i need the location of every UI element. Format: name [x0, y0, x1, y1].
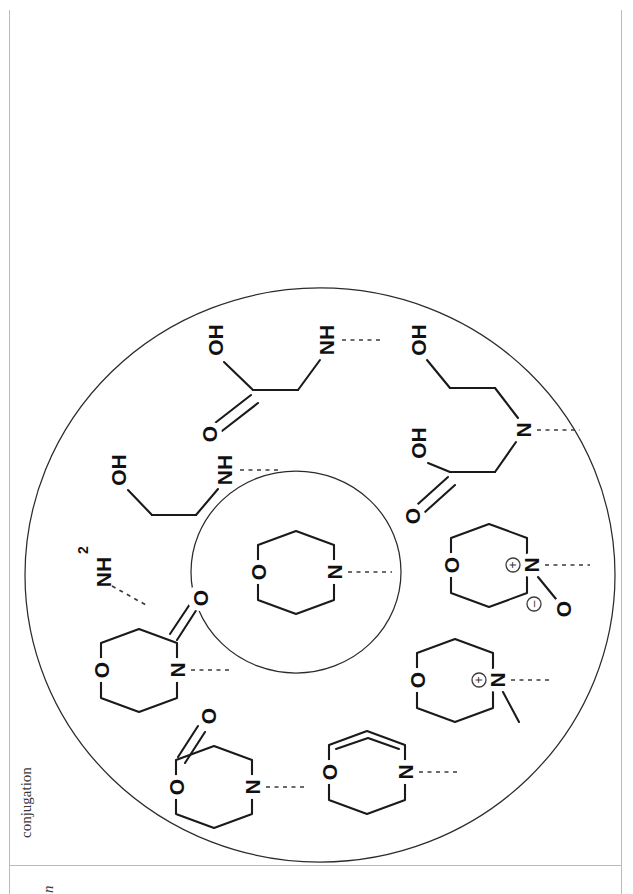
atom-label-ring-nitrogen: N [520, 557, 543, 572]
atom-label-hydroxyl: OH [407, 427, 430, 459]
atom-label-ring-oxygen: O [90, 662, 113, 678]
structure-morpholin-2-one: O N O [164, 703, 307, 828]
atom-label-ring-oxygen: O [165, 779, 188, 795]
structure-morpholin-3-one: O N O [89, 585, 232, 712]
atom-label-amine-nh2: NH [92, 557, 115, 587]
atom-label-hydroxyl: OH [204, 324, 227, 356]
charge-minus-label: – [527, 600, 541, 607]
atom-label-carbonyl-oxygen: O [197, 708, 220, 724]
charge-plus-label: + [506, 561, 520, 568]
atom-label-ring-oxygen: O [440, 557, 463, 573]
charge-plus-label: + [472, 676, 486, 683]
atom-label-tertiary-nitrogen: N [512, 422, 535, 437]
atom-label-ring-oxygen: O [318, 764, 341, 780]
atom-label-carbonyl-oxygen: O [189, 590, 212, 606]
chemical-structure-figure: O N OH O NH [0, 0, 633, 894]
atom-label-amine-nh: NH [315, 325, 338, 355]
atom-label-ring-nitrogen: N [166, 662, 189, 677]
atom-label-nitrogen: N [323, 564, 346, 579]
atom-label-oxide-oxygen: O [552, 601, 575, 617]
structure-hydroxyethylamino: OH NH [103, 454, 281, 515]
atom-label-ring-nitrogen: N [394, 764, 417, 779]
atom-label-ring-nitrogen: N [486, 672, 509, 687]
structure-dehydromorpholine: O N [317, 731, 460, 814]
structure-carboxymethylamino: OH O NH [196, 324, 382, 447]
atom-label-carbonyl-oxygen: O [401, 508, 424, 524]
structure-n-methylmorpholinium: O N + [405, 639, 553, 722]
attachment-bond-amino [112, 586, 146, 605]
atom-label-oxygen: O [247, 564, 270, 580]
atom-label-hydroxyl: OH [107, 454, 130, 486]
structure-amino: NH 2 [75, 546, 146, 605]
atom-label-amine-nh: NH [213, 455, 236, 485]
structure-bis-substituted-amine: OH N OH O [399, 324, 580, 529]
structure-morpholine-n-oxide: O N + O – [439, 524, 590, 621]
atom-label-ring-nitrogen: N [241, 779, 264, 794]
document-page: conjugation n O N OH [0, 0, 633, 894]
inner-ellipse [191, 471, 401, 673]
structure-morpholine-core: O N [246, 531, 392, 614]
atom-label-hydroxyl: OH [407, 324, 430, 356]
atom-label-carbonyl-oxygen: O [198, 426, 221, 442]
atom-label-amine-subscript: 2 [75, 546, 91, 554]
atom-label-ring-oxygen: O [406, 672, 429, 688]
